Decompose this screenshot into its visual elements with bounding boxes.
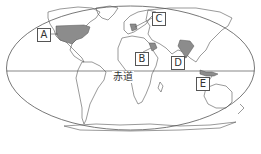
region-b-middle-east: [149, 43, 157, 51]
new-zealand-outline: [238, 104, 244, 114]
label-e: E: [196, 77, 210, 91]
equator-label: 赤道: [112, 71, 134, 83]
madagascar-outline: [158, 82, 163, 92]
region-a-usa: [56, 25, 90, 44]
region-c-europe: [130, 24, 137, 31]
label-a: A: [37, 28, 51, 42]
label-b: B: [135, 52, 149, 66]
label-d: D: [171, 56, 185, 70]
label-c: C: [152, 12, 166, 26]
